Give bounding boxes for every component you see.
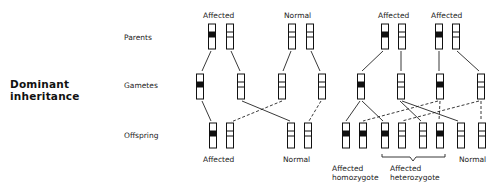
cross2 [343, 24, 486, 161]
chromosome-affected [382, 123, 389, 148]
cross1-gamete-normal-3 [319, 74, 326, 99]
cross1-parent-normal [289, 24, 314, 49]
chromosome-affected [382, 24, 389, 49]
chromosome-normal [288, 123, 295, 148]
heterozygote-bracket [382, 154, 445, 161]
chromosome-normal [227, 123, 234, 148]
chromosome-affected [343, 123, 350, 148]
cross1-parent-affected [209, 24, 234, 49]
cross2-gamete-affected-1 [358, 74, 365, 99]
cross2-offspring-normal [458, 123, 486, 148]
chromosome-affected [437, 123, 444, 148]
cross1 [197, 24, 326, 148]
chromosome-affected [360, 123, 367, 148]
chromosome-affected [210, 123, 217, 148]
chromosome-affected [436, 24, 443, 49]
cross2-offspring-affected-heterozygote-1 [382, 123, 406, 148]
chromosome-normal [289, 24, 296, 49]
chromosome-normal [399, 123, 406, 148]
cross2-offspring-affected-heterozygote-2 [420, 123, 444, 148]
cross1-gamete-normal-1 [238, 74, 245, 99]
cross1-gamete-normal-2 [279, 74, 286, 99]
chromosome-normal [479, 123, 486, 148]
cross2-gamete-normal-1 [398, 74, 405, 99]
cross2-parent-affected-2 [436, 24, 460, 49]
cross2-parent-affected-1 [382, 24, 406, 49]
chromosome-normal [227, 24, 234, 49]
chromosome-normal [305, 123, 312, 148]
chromosome-normal [458, 123, 465, 148]
chromosome-normal [453, 24, 460, 49]
cross1-offspring-normal [288, 123, 312, 148]
cross2-gamete-affected-2 [437, 74, 444, 99]
cross2-offspring-affected-homozygote [343, 123, 367, 148]
inheritance-diagram [0, 0, 500, 191]
cross1-gamete-affected [197, 74, 204, 99]
cross2-gamete-normal-2 [478, 74, 485, 99]
chromosome-affected [209, 24, 216, 49]
cross1-offspring-affected [210, 123, 234, 148]
chromosome-normal [420, 123, 427, 148]
chromosome-normal [399, 24, 406, 49]
chromosome-normal [307, 24, 314, 49]
